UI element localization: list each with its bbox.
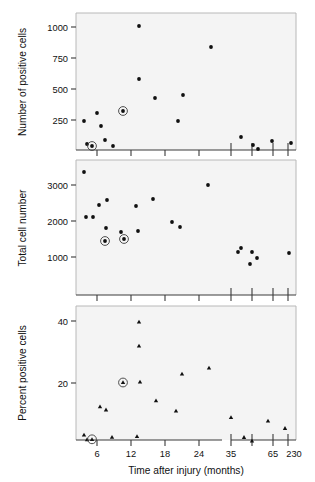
panel2-axis-title: Total cell number: [17, 189, 28, 267]
xtick-label-24: 24: [194, 449, 204, 459]
data-point: [250, 250, 254, 254]
panel3-plot-background: [76, 306, 296, 440]
panel-total-cell-number: 3000 2000 1000: [17, 160, 296, 301]
xtick-label-12: 12: [126, 449, 136, 459]
data-point: [111, 144, 115, 148]
x-axis-tick-labels: 6 12 18 24 35 65 230: [94, 449, 301, 459]
data-point: [90, 144, 94, 148]
scatter-figure-svg: 1000 750 500 250: [0, 0, 315, 482]
panel2-ytick-1000: 1000: [47, 253, 68, 263]
data-point: [97, 203, 101, 207]
data-point: [251, 143, 255, 147]
data-point: [170, 220, 174, 224]
panel3-axis-title: Percent positive cells: [17, 325, 28, 421]
data-point: [105, 198, 109, 202]
data-point: [255, 256, 259, 260]
data-point: [136, 229, 140, 233]
data-point: [103, 239, 107, 243]
figure-container: 1000 750 500 250: [0, 0, 315, 482]
data-point: [239, 246, 243, 250]
data-point: [289, 141, 293, 145]
data-point: [270, 139, 274, 143]
data-point: [256, 147, 260, 151]
x-axis-title: Time after injury (months): [128, 465, 244, 476]
panel1-ytick-250: 250: [52, 116, 68, 126]
data-point: [91, 215, 95, 219]
data-point: [99, 124, 103, 128]
panel1-ytick-500: 500: [52, 85, 68, 95]
xtick-label-18: 18: [160, 449, 170, 459]
data-point: [121, 109, 125, 113]
data-point: [95, 111, 99, 115]
data-point: [103, 138, 107, 142]
data-point: [287, 251, 291, 255]
data-point: [134, 204, 138, 208]
data-point: [137, 24, 141, 28]
xtick-label-35: 35: [226, 449, 236, 459]
panel-percent-positive-cells: 40 20: [17, 306, 296, 446]
data-point: [206, 183, 210, 187]
panel1-y-ticks: [71, 27, 76, 120]
data-point: [137, 77, 141, 81]
data-point: [178, 225, 182, 229]
xtick-label-230: 230: [286, 449, 302, 459]
data-point: [176, 119, 180, 123]
panel-number-of-positive-cells: 1000 750 500 250: [17, 13, 296, 156]
panel3-ytick-40: 40: [58, 317, 68, 327]
panel2-ytick-2000: 2000: [47, 217, 68, 227]
panel3-y-ticks: [71, 321, 76, 383]
data-point: [151, 197, 155, 201]
data-point: [181, 93, 185, 97]
data-point: [122, 237, 126, 241]
xtick-label-6: 6: [94, 449, 99, 459]
data-point: [84, 215, 88, 219]
panel2-ytick-3000: 3000: [47, 181, 68, 191]
panel1-ytick-750: 750: [52, 54, 68, 64]
panel2-plot-background: [76, 160, 296, 295]
data-point: [119, 230, 123, 234]
data-point: [82, 119, 86, 123]
xtick-label-65: 65: [268, 449, 278, 459]
panel1-axis-title: Number of positive cells: [17, 28, 28, 136]
data-point: [153, 96, 157, 100]
data-point: [104, 226, 108, 230]
data-point: [82, 170, 86, 174]
data-point: [236, 250, 240, 254]
panel1-plot-background: [76, 13, 296, 150]
panel1-ytick-1000: 1000: [47, 23, 68, 33]
data-point: [209, 45, 213, 49]
data-point: [239, 135, 243, 139]
data-point: [248, 262, 252, 266]
panel3-ytick-20: 20: [58, 379, 68, 389]
panel2-y-ticks: [71, 185, 76, 257]
